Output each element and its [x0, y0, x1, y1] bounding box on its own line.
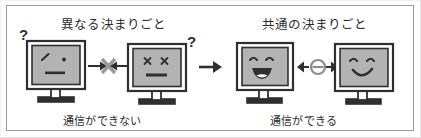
monitor-1-mouth-flat [45, 72, 65, 75]
monitor-1-eye-right-dot [62, 58, 66, 62]
transition-arrow-head [213, 61, 222, 73]
monitor-1-stand-neck [51, 89, 60, 98]
monitor-4-screen [340, 49, 388, 87]
monitor-3-stand-neck [259, 90, 268, 99]
established-link-arrow-left-head [297, 62, 304, 73]
monitor-4-stand-neck [358, 91, 367, 100]
monitor-3 [237, 43, 293, 103]
monitor-2-screen [133, 49, 181, 87]
transition-arrow-icon [199, 61, 222, 73]
established-link-connector [297, 60, 338, 74]
monitor-2-stand-neck [152, 91, 161, 100]
monitor-1 [27, 41, 85, 102]
protocol-communication-figure: 異なる決まりごと 共通の決まりごと ? ? 通信ができない 通信ができる [0, 0, 421, 138]
monitor-2-mouth-flat [146, 74, 167, 77]
diagram-artwork [0, 0, 421, 138]
monitor-3-screen [242, 48, 288, 86]
monitor-1-screen [32, 46, 80, 85]
blocked-link-connector [88, 59, 127, 73]
monitor-4 [335, 44, 393, 104]
monitor-2 [128, 44, 186, 104]
